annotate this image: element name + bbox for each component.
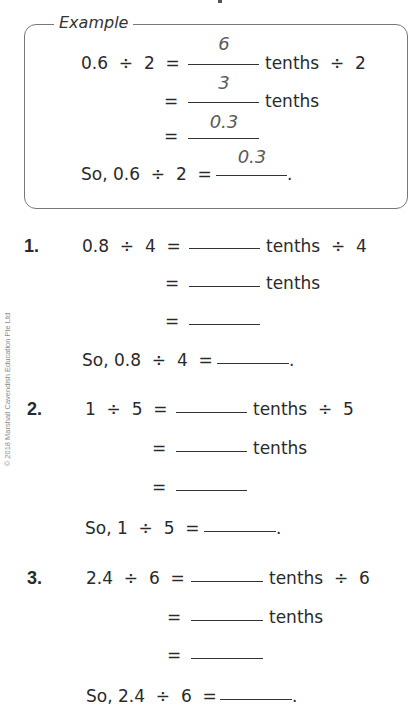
example-row-1-blank — [188, 64, 259, 65]
example-row-3-answer: 0.3 — [188, 112, 260, 132]
copyright-notice: © 2018 Marshall Cavendish Education Pte … — [3, 290, 12, 490]
question-1-conclusion-expression: So, 0.8 ÷ 4 = — [82, 350, 213, 370]
example-row-3-equals: = — [164, 126, 178, 146]
question-2-conclusion-expression: So, 1 ÷ 5 = — [85, 518, 200, 538]
question-2-row-2-blank[interactable] — [176, 451, 247, 452]
example-row-2-equals: = — [164, 91, 178, 111]
example-label: Example — [54, 13, 133, 33]
example-conclusion-answer: 0.3 — [216, 147, 288, 167]
question-2-row-1-suffix: tenths ÷ 5 — [253, 399, 354, 419]
example-row-3-blank — [188, 138, 259, 139]
question-3-conclusion-expression: So, 2.4 ÷ 6 = — [86, 686, 217, 706]
question-1-row-3-blank[interactable] — [189, 324, 260, 325]
question-3-row-3-blank[interactable] — [191, 658, 263, 659]
question-3-number: 3. — [27, 568, 42, 588]
question-1-conclusion-period: . — [289, 350, 294, 370]
example-row-2-suffix: tenths — [265, 91, 319, 111]
example-row-1-answer: 6 — [188, 34, 260, 54]
question-3-row-2-suffix: tenths — [269, 607, 323, 627]
question-2-row-1-blank[interactable] — [176, 412, 247, 413]
question-3-row-2-equals: = — [167, 607, 181, 627]
question-1-row-2-blank[interactable] — [189, 286, 260, 287]
question-3-conclusion-blank[interactable] — [220, 699, 292, 700]
question-1-row-3-equals: = — [165, 311, 179, 331]
question-3-row-3-equals: = — [167, 645, 181, 665]
question-3-row-1-expression: 2.4 ÷ 6 = — [86, 568, 185, 588]
question-1-row-1-blank[interactable] — [189, 248, 260, 249]
example-row-1-expression: 0.6 ÷ 2 = — [81, 53, 180, 73]
example-conclusion-blank — [216, 175, 287, 176]
question-1-row-2-suffix: tenths — [266, 273, 320, 293]
question-1-row-1-expression: 0.8 ÷ 4 = — [82, 236, 181, 256]
example-row-2-blank — [188, 102, 259, 103]
question-1-row-1-suffix: tenths ÷ 4 — [266, 236, 367, 256]
question-2-conclusion-blank[interactable] — [204, 531, 276, 532]
example-conclusion-expression: So, 0.6 ÷ 2 = — [81, 164, 212, 184]
question-3-conclusion-period: . — [292, 686, 297, 706]
question-2-row-1-expression: 1 ÷ 5 = — [85, 399, 168, 419]
cropped-heading-fragment — [218, 0, 222, 3]
question-2-row-2-suffix: tenths — [253, 438, 307, 458]
question-2-conclusion-period: . — [276, 518, 281, 538]
question-2-number: 2. — [27, 399, 42, 419]
question-2-row-3-equals: = — [152, 477, 166, 497]
question-3-row-1-suffix: tenths ÷ 6 — [269, 568, 370, 588]
example-row-1-suffix: tenths ÷ 2 — [265, 53, 366, 73]
question-1-number: 1. — [24, 236, 39, 256]
question-3-row-1-blank[interactable] — [191, 581, 263, 582]
question-1-row-2-equals: = — [165, 273, 179, 293]
question-2-row-2-equals: = — [152, 438, 166, 458]
example-conclusion-period: . — [287, 164, 292, 184]
question-2-row-3-blank[interactable] — [176, 490, 247, 491]
example-row-2-answer: 3 — [188, 73, 260, 93]
question-3-row-2-blank[interactable] — [191, 620, 263, 621]
question-1-conclusion-blank[interactable] — [217, 363, 289, 364]
